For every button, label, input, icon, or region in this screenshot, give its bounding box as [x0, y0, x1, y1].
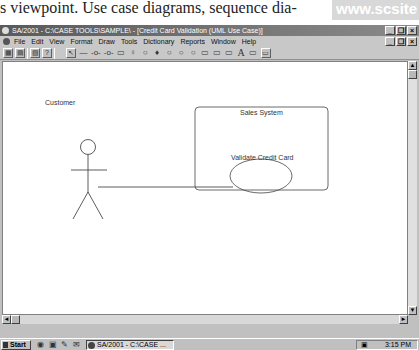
- clock[interactable]: 3:15 PM: [385, 341, 411, 349]
- zoom-icon[interactable]: ▧: [30, 48, 40, 58]
- scroll-left-button[interactable]: ◄: [2, 315, 11, 324]
- system-boundary[interactable]: [195, 107, 328, 190]
- use-case-label: Validate Credit Card: [231, 154, 294, 161]
- scroll-down-button[interactable]: ▼: [408, 306, 417, 315]
- restore-button[interactable]: ❐: [396, 26, 406, 35]
- menu-reports[interactable]: Reports: [180, 36, 205, 47]
- help-icon[interactable]: ?: [42, 48, 52, 58]
- menu-dictionary[interactable]: Dictionary: [143, 36, 174, 47]
- rectangle-icon[interactable]: ▭: [117, 48, 126, 58]
- interface-icon[interactable]: ○: [189, 48, 198, 58]
- watermark: www.scsite: [332, 0, 419, 20]
- frame-icon[interactable]: ▭: [261, 48, 271, 58]
- desktop-icon[interactable]: ▣: [48, 340, 57, 349]
- note-icon[interactable]: ▭: [225, 48, 234, 58]
- menu-edit[interactable]: Edit: [31, 36, 43, 47]
- vertical-scrollbar[interactable]: ▲ ▼: [408, 61, 417, 315]
- horizontal-scrollbar[interactable]: ◄ ►: [2, 315, 408, 324]
- association-icon[interactable]: -o-: [91, 48, 101, 58]
- actor-customer[interactable]: [71, 140, 107, 220]
- ellipse-icon[interactable]: ○: [165, 48, 174, 58]
- status-bar: [0, 325, 419, 338]
- scroll-up-button[interactable]: ▲: [408, 61, 417, 70]
- hscroll-thumb[interactable]: [11, 315, 20, 324]
- menu-draw[interactable]: Draw: [99, 36, 115, 47]
- pointer-icon[interactable]: ↖: [66, 48, 76, 58]
- package-icon[interactable]: ▭: [201, 48, 210, 58]
- network-icon[interactable]: ▣: [361, 341, 368, 349]
- menu-view[interactable]: View: [49, 36, 64, 47]
- grid-icon[interactable]: ▦: [3, 48, 13, 58]
- book-page-text: s viewpoint. Use case diagrams, sequence…: [0, 0, 300, 20]
- actor-label: Customer: [45, 99, 75, 106]
- scroll-right-button[interactable]: ►: [399, 315, 408, 324]
- taskbar-app-button[interactable]: SA/2001 - C:\CASE ...: [86, 340, 174, 350]
- dependency-icon[interactable]: -o-: [104, 48, 114, 58]
- document-icon[interactable]: [3, 38, 10, 45]
- text-icon[interactable]: A: [237, 48, 246, 58]
- editor-icon[interactable]: ✎: [60, 340, 69, 349]
- scroll-thumb[interactable]: [408, 70, 417, 79]
- list-icon[interactable]: ▤: [15, 48, 25, 58]
- menu-help[interactable]: Help: [242, 36, 256, 47]
- doc-restore-button[interactable]: ❐: [396, 37, 406, 46]
- system-boundary-label: Sales System: [240, 109, 283, 116]
- menu-window[interactable]: Window: [211, 36, 236, 47]
- doc-close-button[interactable]: ×: [407, 37, 417, 46]
- use-case-ellipse[interactable]: [230, 159, 292, 193]
- doc-minimize-button[interactable]: _: [385, 37, 395, 46]
- line-icon[interactable]: —: [79, 48, 88, 58]
- toolbar: ▦ ▤ ▧ ? ↖ — -o- -o- ▭ ♀ ○ ♦ ○ ○ ○ ▭ ▭ ▭ …: [0, 47, 419, 60]
- minimize-button[interactable]: _: [385, 26, 395, 35]
- close-button[interactable]: ×: [407, 26, 417, 35]
- circle-icon[interactable]: ○: [141, 48, 150, 58]
- system-tray: ▣ 3:15 PM: [356, 340, 418, 350]
- node-icon[interactable]: ○: [177, 48, 186, 58]
- toolbar-separator: [54, 48, 55, 59]
- title-bar[interactable]: SA/2001 - C:\CASE TOOLS\SAMPLE\ - [Credi…: [0, 25, 419, 36]
- taskbar: Start ◉ ▣ ✎ ✉ SA/2001 - C:\CASE ... ▣ 3:…: [0, 338, 419, 350]
- boundary-icon[interactable]: ▭: [249, 48, 258, 58]
- diagram-canvas[interactable]: Customer Sales System Validate Credit Ca…: [2, 61, 408, 315]
- menu-format[interactable]: Format: [70, 36, 92, 47]
- toolbar-separator: [27, 48, 28, 59]
- menu-bar: File Edit View Format Draw Tools Diction…: [0, 36, 419, 47]
- decision-icon[interactable]: ♦: [153, 48, 162, 58]
- menu-file[interactable]: File: [14, 36, 25, 47]
- mail-icon[interactable]: ✉: [72, 340, 81, 349]
- actor-icon[interactable]: ♀: [129, 48, 138, 58]
- app-icon: [2, 27, 9, 34]
- start-button[interactable]: Start: [1, 340, 31, 350]
- class-icon[interactable]: ▭: [213, 48, 222, 58]
- window-title: SA/2001 - C:\CASE TOOLS\SAMPLE\ - [Credi…: [12, 27, 263, 34]
- browser-icon[interactable]: ◉: [36, 340, 45, 349]
- menu-tools[interactable]: Tools: [121, 36, 137, 47]
- application-window: SA/2001 - C:\CASE TOOLS\SAMPLE\ - [Credi…: [0, 25, 419, 338]
